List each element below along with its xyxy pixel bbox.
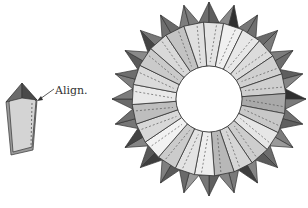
ring-point-left	[112, 99, 135, 109]
ring-point-right	[209, 2, 219, 25]
ring-point-right	[283, 99, 306, 109]
ring-point-left	[209, 173, 219, 196]
ring-point-right	[199, 173, 209, 196]
origami-diagram: Align.	[0, 0, 308, 208]
ring-center-hole	[176, 66, 242, 132]
ring-point-right	[112, 89, 135, 99]
unit-tip-right	[22, 83, 37, 100]
align-arrow	[40, 89, 54, 99]
ring-point-left	[283, 89, 306, 99]
align-arrowhead-icon	[37, 96, 43, 101]
align-label: Align.	[54, 84, 88, 97]
ring-point-left	[199, 2, 209, 25]
single-unit: Align.	[6, 83, 88, 155]
assembled-ring	[112, 2, 306, 196]
